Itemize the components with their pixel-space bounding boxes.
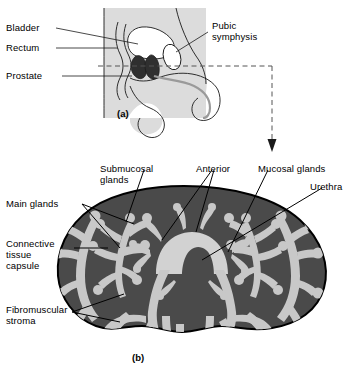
label-submucosal-glands-line1: Submucosal: [100, 163, 153, 174]
section-direction-arrowhead: [268, 139, 277, 152]
label-prostate: Prostate: [6, 70, 42, 81]
label-pubic-symphysis-line2: symphysis: [212, 31, 257, 42]
label-mucosal-glands: Mucosal glands: [258, 163, 325, 174]
label-main-glands: Main glands: [6, 198, 58, 209]
label-fibromuscular-stroma-line2: stroma: [6, 315, 36, 326]
label-bladder: Bladder: [6, 22, 39, 33]
label-connective-tissue-capsule-line3: capsule: [6, 260, 39, 271]
label-anterior: Anterior: [196, 163, 230, 174]
label-connective-tissue-capsule-line1: Connective: [6, 238, 55, 249]
prostate-anatomy-figure: Bladder Rectum Prostate Pubic symphysis …: [0, 0, 364, 381]
label-rectum: Rectum: [6, 42, 39, 53]
panel-a-tag: (a): [117, 108, 129, 119]
label-connective-tissue-capsule-line2: tissue: [6, 249, 31, 260]
label-fibromuscular-stroma-line1: Fibromuscular: [6, 304, 67, 315]
panel-a-illustration: [0, 0, 364, 160]
label-urethra: Urethra: [310, 181, 342, 192]
label-submucosal-glands-line2: glands: [100, 174, 129, 185]
label-pubic-symphysis-line1: Pubic: [212, 20, 236, 31]
panel-b-tag: (b): [132, 352, 144, 363]
